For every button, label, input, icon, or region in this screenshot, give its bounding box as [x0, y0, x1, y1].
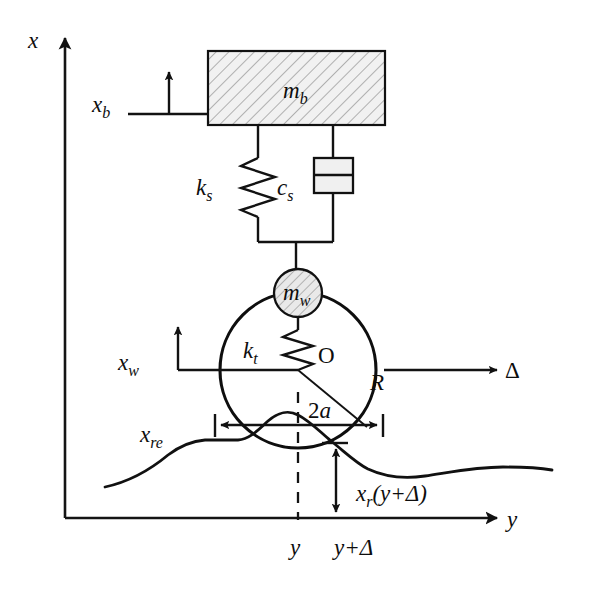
road-shift-label: Δ — [505, 358, 520, 383]
tire-spring-coil — [283, 330, 313, 370]
wheel-radius-label: R — [369, 370, 384, 395]
suspension-spring-assembly — [241, 125, 275, 242]
suspension-yoke — [258, 242, 333, 269]
contact-patch-label: 2a — [308, 398, 331, 423]
tire-spring-label: kt — [243, 338, 258, 367]
body-displacement-label: xb — [91, 92, 110, 121]
tick-label-y-delta: y+Δ — [332, 535, 373, 560]
road-envelope-label: xre — [139, 422, 163, 451]
figure-canvas: x y mb xb ks cs mw kt xw O R Δ 2 — [0, 0, 593, 593]
suspension-spring-coil — [241, 158, 275, 217]
wheel-displacement-label: xw — [117, 350, 139, 379]
tire-spring-assembly — [283, 317, 313, 370]
suspension-damper-label: cs — [277, 175, 293, 204]
road-height-label: xr(y+Δ) — [355, 481, 427, 510]
tick-label-y: y — [288, 535, 301, 560]
y-axis-label: y — [505, 507, 518, 532]
wheel-displacement-indicator — [178, 327, 298, 370]
body-displacement-indicator — [128, 72, 208, 114]
x-axis-label: x — [27, 28, 39, 53]
road-surface-curve — [105, 412, 552, 487]
road-profile-group — [105, 412, 552, 487]
suspension-model-figure: x y mb xb ks cs mw kt xw O R Δ 2 — [0, 0, 593, 593]
wheel-center-label: O — [318, 343, 335, 368]
suspension-spring-label: ks — [196, 175, 212, 204]
suspension-damper-assembly — [314, 125, 353, 242]
